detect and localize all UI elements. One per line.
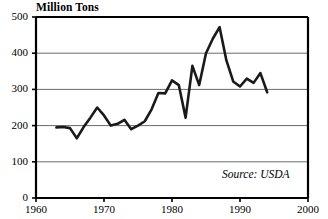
y-axis-tick-label: 500 (2, 10, 28, 22)
x-axis-tick-label: 1990 (220, 203, 260, 215)
plot-area (0, 0, 328, 219)
chart-container: Million Tons 5004003002001000 1960197019… (0, 0, 328, 219)
x-axis-tick-label: 1970 (84, 203, 124, 215)
x-axis-tick-label: 2000 (288, 203, 328, 215)
y-axis-tick-label: 400 (2, 46, 28, 58)
source-annotation: Source: USDA (222, 168, 290, 180)
y-axis-tick-label: 100 (2, 155, 28, 167)
x-axis-tick-label: 1960 (16, 203, 56, 215)
y-axis-tick-label: 200 (2, 119, 28, 131)
x-axis-tick-label: 1980 (152, 203, 192, 215)
gridlines (36, 53, 308, 162)
y-axis-tick-label: 300 (2, 82, 28, 94)
y-axis-tick-label: 0 (2, 191, 28, 203)
data-series-line (56, 27, 267, 138)
